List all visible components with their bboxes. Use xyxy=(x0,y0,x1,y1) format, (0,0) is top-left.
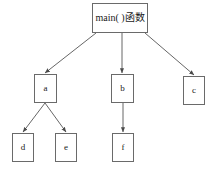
edge-a-e xyxy=(45,103,66,132)
node-c-label: c xyxy=(192,86,196,95)
node-e-label: e xyxy=(64,143,68,152)
node-main-label: main( )函数 xyxy=(95,13,144,23)
edge-main-a xyxy=(45,33,96,73)
node-main[interactable]: main( )函数 xyxy=(92,3,148,33)
node-f[interactable]: f xyxy=(112,133,134,162)
node-a-label: a xyxy=(44,84,48,93)
node-b-label: b xyxy=(120,84,125,93)
edge-main-c xyxy=(145,33,194,75)
node-b[interactable]: b xyxy=(111,74,134,103)
node-e[interactable]: e xyxy=(55,133,77,162)
node-f-label: f xyxy=(122,143,125,152)
edge-a-d xyxy=(23,103,45,132)
node-a[interactable]: a xyxy=(34,74,57,103)
node-d[interactable]: d xyxy=(12,133,34,162)
function-call-hierarchy-diagram: main( )函数 a b c d e f xyxy=(0,0,214,173)
node-d-label: d xyxy=(21,143,26,152)
node-c[interactable]: c xyxy=(183,76,205,105)
